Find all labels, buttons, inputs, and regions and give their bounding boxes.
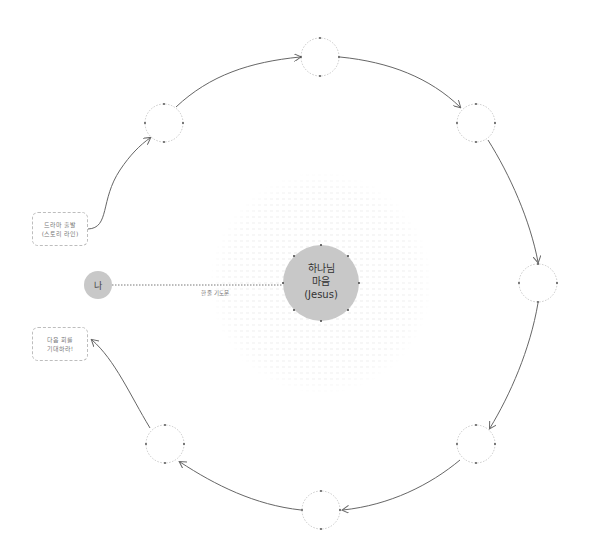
- start-box[interactable]: 드라마 출발 (스토리 라인): [32, 212, 88, 246]
- cycle-node-upper-left: [145, 104, 183, 142]
- center-node-label: 하나님 마음 (Jesus): [283, 262, 359, 301]
- center-label-line1: 하나님: [283, 262, 359, 275]
- arrow-right-to-lower-right: [490, 303, 538, 428]
- center-label-line3: (Jesus): [283, 288, 359, 301]
- arrow-bottom-to-lower-left: [180, 462, 301, 510]
- cycle-node-lower-right: [457, 425, 495, 463]
- arrow-upper-left-to-top: [176, 57, 300, 107]
- arrow-start-to-upper-left: [88, 138, 150, 229]
- connector-label: 한 줄 기도문: [185, 289, 245, 297]
- cycle-node-bottom: [302, 491, 340, 529]
- arrow-top-to-upper-right: [340, 57, 460, 107]
- end-box[interactable]: 다음 회를 기대하라!: [32, 327, 88, 361]
- cycle-node-right: [519, 264, 557, 302]
- end-box-line1: 다음 회를: [47, 335, 73, 344]
- cycle-node-top: [301, 38, 339, 76]
- me-node-label: 나: [84, 279, 112, 292]
- end-box-line2: 기대하라!: [47, 344, 73, 353]
- cycle-node-lower-left: [146, 425, 184, 463]
- arrow-upper-right-to-right: [488, 140, 538, 262]
- start-box-line1: 드라마 출발: [44, 220, 76, 229]
- arrow-lower-right-to-bottom: [343, 460, 460, 510]
- start-box-line2: (스토리 라인): [42, 229, 79, 238]
- center-label-line2: 마음: [283, 275, 359, 288]
- cycle-node-upper-right: [457, 104, 495, 142]
- arrow-lower-left-to-end: [92, 340, 150, 428]
